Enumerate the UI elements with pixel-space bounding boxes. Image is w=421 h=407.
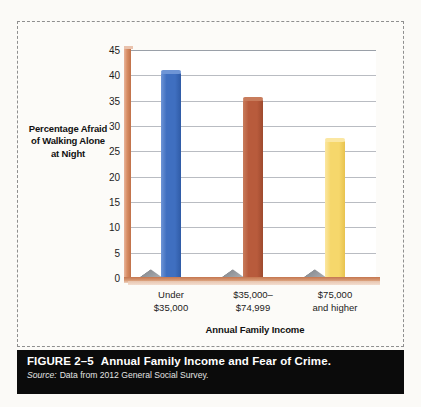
bar-3[interactable] <box>325 141 345 278</box>
bar-shadow-2 <box>221 261 245 278</box>
x-category-label-3: $75,000 and higher <box>290 289 380 314</box>
x-axis-title: Annual Family Income <box>130 324 380 335</box>
x-axis-category-labels: Under $35,000$35,000– $74,999$75,000 and… <box>130 289 380 323</box>
figure-number: FIGURE 2–5 <box>27 355 94 367</box>
y-tick-label-0: 0 <box>80 273 120 284</box>
y-tick-label-5: 5 <box>80 247 120 258</box>
bar-body-3 <box>325 141 345 278</box>
bar-shadow-1 <box>139 261 163 278</box>
bar-2[interactable] <box>243 100 263 278</box>
x-category-label-1: Under $35,000 <box>126 289 216 314</box>
y-axis-spine-cap <box>124 46 133 49</box>
caption-source-line: Source:Data from 2012 General Social Sur… <box>27 370 394 380</box>
bar-shadow-3 <box>303 261 327 278</box>
y-tick-label-35: 35 <box>80 95 120 106</box>
y-tick-label-45: 45 <box>80 45 120 56</box>
y-tick-label-15: 15 <box>80 197 120 208</box>
bar-cap-3 <box>325 138 345 142</box>
figure-caption-bar: FIGURE 2–5Annual Family Income and Fear … <box>17 350 404 394</box>
plot-area <box>130 50 376 278</box>
figure-title: Annual Family Income and Fear of Crime. <box>101 355 331 367</box>
y-tick-label-20: 20 <box>80 171 120 182</box>
bar-series <box>130 50 376 278</box>
bar-body-2 <box>243 100 263 278</box>
bar-1[interactable] <box>161 73 181 278</box>
y-axis-spine <box>124 48 131 282</box>
bar-cap-1 <box>161 70 181 74</box>
y-tick-label-25: 25 <box>80 146 120 157</box>
x-category-label-2: $35,000– $74,999 <box>208 289 298 314</box>
x-axis-floor-front <box>128 281 380 285</box>
caption-title-line: FIGURE 2–5Annual Family Income and Fear … <box>27 355 394 367</box>
y-tick-label-40: 40 <box>80 70 120 81</box>
y-tick-label-10: 10 <box>80 222 120 233</box>
bar-cap-2 <box>243 97 263 101</box>
source-label: Source: <box>27 370 57 380</box>
bar-body-1 <box>161 73 181 278</box>
y-tick-label-30: 30 <box>80 121 120 132</box>
source-text: Data from 2012 General Social Survey. <box>60 370 209 380</box>
figure-page: Percentage Afraid of Walking Alone at Ni… <box>0 0 421 407</box>
bar-chart: Percentage Afraid of Walking Alone at Ni… <box>17 21 404 347</box>
